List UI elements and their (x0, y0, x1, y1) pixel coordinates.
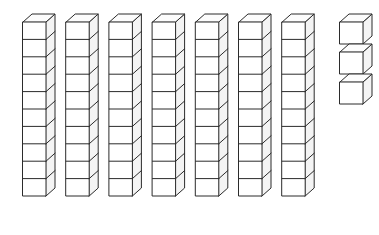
unit-cube-2 (340, 44, 372, 74)
base-ten-blocks-canvas (0, 0, 379, 235)
unit-cube-3 (340, 74, 372, 104)
unit-front-face (340, 22, 363, 44)
ten-rod-1 (23, 14, 55, 196)
ten-rod-2 (66, 14, 98, 196)
unit-cube-1 (340, 14, 372, 44)
ten-rod-7 (282, 14, 314, 196)
unit-front-face (340, 52, 363, 74)
ten-rod-4 (153, 14, 185, 196)
base-ten-blocks-figure (0, 0, 379, 235)
ten-rod-6 (239, 14, 271, 196)
unit-front-face (340, 82, 363, 104)
ten-rod-3 (109, 14, 141, 196)
ten-rod-5 (196, 14, 228, 196)
